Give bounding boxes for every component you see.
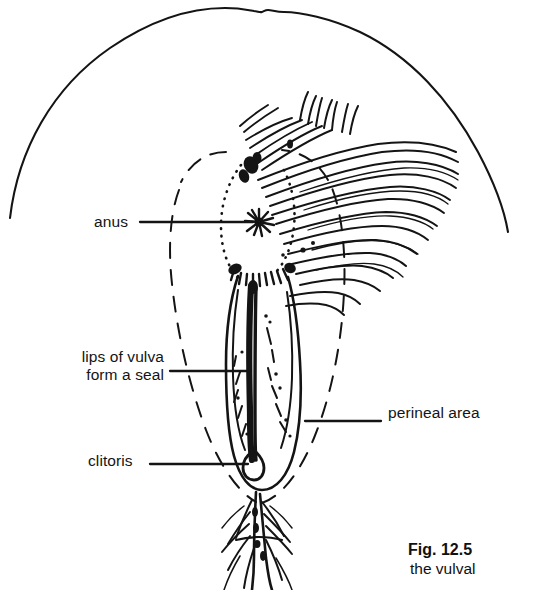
tail-hair-fan <box>237 92 458 315</box>
figure-container: anus lips of vulvaform a seal clitoris p… <box>0 0 535 590</box>
label-lips-of-vulva: lips of vulvaform a seal <box>36 348 164 384</box>
vulva-shading-dots <box>236 314 291 437</box>
perineal-dashed-oval <box>170 150 344 503</box>
label-lips-line2: form a seal <box>86 366 164 383</box>
label-lips-line1: lips of vulva <box>82 348 164 365</box>
vulva-shading-dashes <box>234 328 286 436</box>
label-clitoris: clitoris <box>88 452 133 470</box>
lower-hair-tuft <box>222 492 292 590</box>
label-perineal-area: perineal area <box>388 404 480 422</box>
anal-vulva-dark-caps <box>227 261 298 277</box>
label-anus: anus <box>94 213 128 231</box>
figure-caption-title: Fig. 12.5 <box>408 540 535 559</box>
anatomy-line-drawing <box>0 0 535 590</box>
figure-caption: Fig. 12.5 the vulval <box>408 540 535 578</box>
leader-lines <box>140 222 381 464</box>
figure-caption-text: the vulval <box>408 559 535 578</box>
